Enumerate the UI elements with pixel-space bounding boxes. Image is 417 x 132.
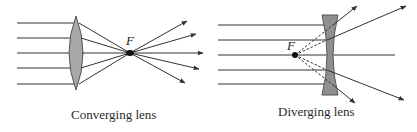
diverging-lens-caption: Diverging lens [278,104,355,120]
converging-lens-panel: F [17,16,203,90]
focal-point-marker [126,50,134,56]
convex-lens-icon [69,16,83,90]
diverging-lens-panel: F [218,6,406,103]
converging-lens-caption: Converging lens [71,107,156,123]
incoming-rays [17,23,76,84]
focal-point-label: F [125,33,135,48]
outgoing-rays [130,21,203,83]
focal-point-label: F [286,38,296,53]
incoming-rays [218,25,395,84]
